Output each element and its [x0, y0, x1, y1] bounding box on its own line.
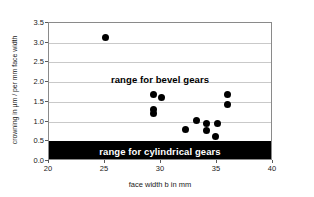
x-tick-mark-25 [104, 160, 105, 163]
scatter-chart: crowning in µm / per mm face width range… [0, 0, 314, 197]
y-tick-label-2.0: 2.0 [22, 77, 44, 86]
x-tick-label-25: 25 [89, 164, 119, 173]
y-tick-label-3.0: 3.0 [22, 37, 44, 46]
y-tick-mark-3.5 [45, 22, 48, 23]
y-tick-label-0.5: 0.5 [22, 136, 44, 145]
x-axis-title: face width b in mm [48, 180, 272, 189]
y-tick-label-2.5: 2.5 [22, 57, 44, 66]
data-point [224, 91, 231, 98]
y-tick-mark-2.5 [45, 61, 48, 62]
data-point [102, 34, 109, 41]
data-point [224, 101, 231, 108]
x-tick-mark-40 [272, 160, 273, 163]
data-point [203, 120, 210, 127]
y-tick-label-1.0: 1.0 [22, 116, 44, 125]
data-point [203, 127, 210, 134]
y-tick-mark-1.5 [45, 101, 48, 102]
x-tick-mark-30 [160, 160, 161, 163]
gridline-y-1.0 [49, 122, 271, 123]
range-for-cylindrical-gears-label: range for cylindrical gears [49, 146, 271, 157]
x-tick-label-30: 30 [145, 164, 175, 173]
y-tick-mark-0.5 [45, 140, 48, 141]
gridline-y-1.5 [49, 102, 271, 103]
data-point [150, 110, 157, 117]
x-tick-label-35: 35 [201, 164, 231, 173]
y-tick-label-1.5: 1.5 [22, 96, 44, 105]
data-point [158, 94, 165, 101]
y-tick-mark-1.0 [45, 121, 48, 122]
y-tick-label-3.5: 3.5 [22, 18, 44, 27]
x-tick-label-20: 20 [33, 164, 63, 173]
data-point [150, 91, 157, 98]
x-tick-mark-20 [48, 160, 49, 163]
data-point [214, 120, 221, 127]
plot-area: range for bevel gearsrange for cylindric… [48, 22, 272, 160]
x-tick-label-40: 40 [257, 164, 287, 173]
gridline-y-2.5 [49, 62, 271, 63]
data-point [182, 126, 189, 133]
y-tick-mark-3.0 [45, 42, 48, 43]
y-axis-title: crowning in µm / per mm face width [9, 10, 21, 170]
gridline-y-3.0 [49, 43, 271, 44]
range-for-cylindrical-gears: range for cylindrical gears [49, 141, 271, 160]
data-point [193, 117, 200, 124]
y-tick-mark-2.0 [45, 81, 48, 82]
range-for-bevel-gears-label: range for bevel gears [49, 74, 271, 85]
data-point [212, 133, 219, 140]
x-tick-mark-35 [216, 160, 217, 163]
